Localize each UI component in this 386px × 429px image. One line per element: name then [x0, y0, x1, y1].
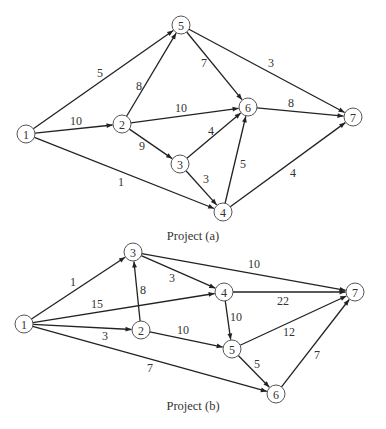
edge-weight-label: 10: [248, 257, 260, 271]
node-a-6: 6: [239, 98, 257, 116]
edge-weight-label: 15: [91, 297, 103, 311]
edge-weight-label: 10: [175, 101, 187, 115]
network-diagram: 5101810973435841234567Project (a) 115378…: [0, 0, 386, 429]
project-b-graph: 11537831010221012571234567Project (b): [15, 243, 364, 413]
edge-a-6-7: [257, 108, 344, 116]
edge-weight-label: 7: [147, 361, 153, 375]
edge-weight-label: 1: [118, 175, 124, 189]
edge-b-6-7: [282, 300, 350, 387]
edge-weight-label: 10: [70, 114, 82, 128]
node-a-2: 2: [113, 115, 131, 133]
edge-weight-label: 3: [169, 271, 175, 285]
edge-b-1-6: [33, 326, 267, 391]
node-a-3: 3: [171, 155, 189, 173]
edge-weight-label: 4: [208, 124, 214, 138]
node-label: 2: [119, 118, 125, 132]
edge-weight-label: 8: [140, 283, 146, 297]
edge-weight-label: 22: [277, 294, 289, 308]
edge-weight-label: 4: [290, 166, 296, 180]
node-a-4: 4: [214, 203, 232, 221]
edge-weight-label: 8: [288, 96, 294, 110]
edge-weight-label: 10: [230, 310, 242, 324]
node-label: 3: [177, 158, 183, 172]
node-label: 1: [23, 128, 29, 142]
node-label: 6: [273, 388, 279, 402]
node-label: 7: [350, 111, 356, 125]
edge-weight-label: 5: [254, 357, 260, 371]
edge-weight-label: 3: [268, 56, 274, 70]
edge-weight-label: 1: [70, 275, 76, 289]
edge-weight-label: 12: [283, 325, 295, 339]
edge-weight-label: 8: [136, 79, 142, 93]
caption-project-a: Project (a): [167, 229, 219, 243]
edge-a-5-7: [189, 29, 345, 112]
edge-a-1-5: [33, 30, 173, 128]
node-a-1: 1: [17, 125, 35, 143]
edge-weight-label: 3: [102, 329, 108, 343]
edge-a-2-3: [129, 129, 172, 158]
edge-b-1-4: [33, 294, 215, 323]
project-a-graph: 5101810973435841234567Project (a): [17, 16, 362, 243]
node-b-3: 3: [124, 243, 142, 261]
node-label: 7: [352, 286, 358, 300]
edge-weight-label: 3: [203, 172, 209, 186]
node-a-5: 5: [172, 16, 190, 34]
edge-weight-label: 7: [201, 56, 207, 70]
node-label: 6: [245, 101, 251, 115]
edge-weight-label: 5: [240, 157, 246, 171]
edge-weight-label: 7: [314, 348, 320, 362]
node-b-4: 4: [215, 283, 233, 301]
node-b-1: 1: [15, 315, 33, 333]
node-label: 4: [220, 206, 226, 220]
edge-weight-label: 9: [139, 139, 145, 153]
caption-project-b: Project (b): [166, 399, 219, 413]
node-label: 1: [21, 318, 27, 332]
edge-weight-label: 5: [97, 66, 103, 80]
edge-b-1-2: [33, 324, 132, 329]
node-b-7: 7: [346, 283, 364, 301]
edge-a-4-7: [230, 123, 345, 207]
node-b-5: 5: [223, 340, 241, 358]
node-b-2: 2: [132, 321, 150, 339]
node-label: 5: [178, 19, 184, 33]
node-label: 2: [138, 324, 144, 338]
node-b-6: 6: [267, 385, 285, 403]
node-label: 3: [130, 246, 136, 260]
edge-weight-label: 10: [177, 323, 189, 337]
node-label: 4: [221, 286, 227, 300]
node-a-7: 7: [344, 108, 362, 126]
node-label: 5: [229, 343, 235, 357]
